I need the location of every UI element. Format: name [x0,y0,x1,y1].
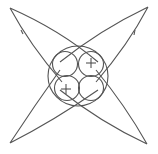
lobes [10,7,148,144]
small-circle-top-left [53,52,78,77]
lobe-top-right [60,7,148,82]
small-circle-bottom-left [55,76,80,101]
small-circle-bottom-right [79,76,104,101]
lobe-bottom-left [10,70,98,143]
star-circle-diagram [0,0,158,154]
